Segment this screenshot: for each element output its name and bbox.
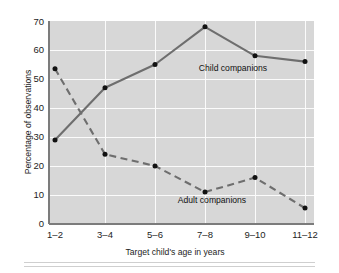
plot-area-background — [49, 21, 314, 224]
x-tick-label-7-8: 7–8 — [197, 229, 213, 240]
y-tick-label-40: 40 — [33, 102, 44, 113]
series-annotation-child-companions: Child companions — [199, 63, 267, 73]
x-tick-label-9-10: 9–10 — [244, 229, 265, 240]
x-tick-label-5-6: 5–6 — [147, 229, 163, 240]
figure-container: 0 10 20 30 40 50 60 70 1–2 3–4 5–6 7–8 9… — [0, 0, 339, 273]
x-tick-label-11-12: 11–12 — [292, 229, 318, 240]
x-tick-label-1-2: 1–2 — [47, 229, 63, 240]
y-axis-title: Percentage of observations — [23, 70, 33, 175]
y-tick-label-30: 30 — [33, 131, 44, 142]
y-tick-label-10: 10 — [33, 189, 44, 200]
y-tick-label-60: 60 — [33, 44, 44, 55]
x-axis-title: Target child's age in years — [125, 247, 224, 257]
series-annotation-adult-companions: Adult companions — [178, 195, 246, 205]
y-tick-label-50: 50 — [33, 73, 44, 84]
footer-divider — [24, 262, 315, 267]
y-tick-label-0: 0 — [39, 218, 44, 229]
y-tick-label-20: 20 — [33, 160, 44, 171]
line-chart: 0 10 20 30 40 50 60 70 1–2 3–4 5–6 7–8 9… — [0, 0, 339, 273]
x-tick-label-3-4: 3–4 — [97, 229, 113, 240]
y-tick-label-70: 70 — [33, 16, 44, 27]
